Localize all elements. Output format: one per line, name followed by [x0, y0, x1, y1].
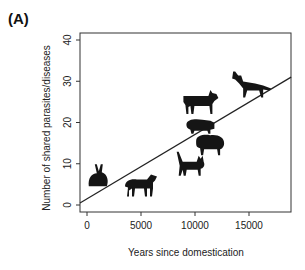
y-tick-label: 40 [62, 34, 73, 46]
y-tick-label: 10 [62, 158, 73, 170]
sheep-icon [196, 135, 224, 155]
x-axis-title: Years since domestication [128, 247, 244, 258]
y-axis-title: Number of shared parasites/diseases [41, 45, 52, 211]
data-points [89, 71, 272, 196]
axis-ticks: 050001000015000010203040 [62, 34, 263, 231]
x-tick-label: 10000 [181, 220, 209, 231]
y-tick-label: 30 [62, 75, 73, 87]
cattle-icon [183, 90, 218, 114]
x-tick-label: 5000 [130, 220, 153, 231]
cat-icon [177, 152, 205, 176]
plot-frame [80, 33, 291, 212]
dog-icon [232, 71, 271, 97]
x-tick-label: 15000 [235, 220, 263, 231]
y-tick-label: 20 [62, 117, 73, 129]
x-tick-label: 0 [84, 220, 90, 231]
horse-icon [125, 174, 157, 196]
rabbit-icon [89, 164, 108, 186]
y-tick-label: 0 [62, 202, 73, 208]
scatter-chart: 050001000015000010203040 Years since dom… [0, 0, 305, 270]
